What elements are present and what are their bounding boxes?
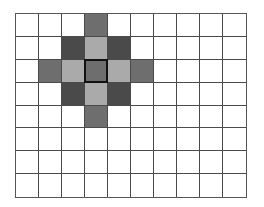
grid-cell [177, 174, 200, 197]
grid-cell [85, 174, 108, 197]
grid-cell [154, 14, 177, 37]
grid-cell [16, 83, 39, 106]
grid-cell [223, 128, 246, 151]
grid-cell [16, 174, 39, 197]
grid-cell [108, 174, 131, 197]
grid-cell [16, 37, 39, 60]
grid-cell [131, 106, 154, 129]
grid-cell-medium [39, 60, 62, 83]
grid-cell [223, 106, 246, 129]
grid-cell [131, 151, 154, 174]
grid-cell [177, 151, 200, 174]
grid-cell [154, 151, 177, 174]
grid-cell [200, 106, 223, 129]
grid-cell [16, 128, 39, 151]
grid-cell-medium [85, 106, 108, 129]
grid-cell [39, 14, 62, 37]
grid-cell [16, 14, 39, 37]
grid-cell-dark [108, 83, 131, 106]
grid-cell-medium [85, 14, 108, 37]
grid-cell [154, 37, 177, 60]
grid-cell [131, 128, 154, 151]
grid-cell [85, 151, 108, 174]
grid-cell [223, 14, 246, 37]
grid-cell [62, 151, 85, 174]
grid-cell [200, 60, 223, 83]
grid-cell [177, 60, 200, 83]
grid-cell [131, 14, 154, 37]
grid-cell [154, 128, 177, 151]
grid-cell [39, 106, 62, 129]
grid-cell [200, 151, 223, 174]
grid-cell [131, 174, 154, 197]
grid-cell [154, 83, 177, 106]
grid-cell [108, 14, 131, 37]
grid-cell-light [108, 60, 131, 83]
grid-cell [108, 151, 131, 174]
grid-cell [16, 151, 39, 174]
grid-cell [200, 174, 223, 197]
grid-cell [154, 60, 177, 83]
grid-cell [177, 37, 200, 60]
grid-cell [223, 37, 246, 60]
grid-cell [39, 151, 62, 174]
grid-cell [108, 106, 131, 129]
grid-cell [177, 128, 200, 151]
grid-cell [39, 37, 62, 60]
grid-cell-dark [62, 83, 85, 106]
grid-cell [177, 83, 200, 106]
grid-cell [200, 37, 223, 60]
grid-cell-light [85, 37, 108, 60]
grid-cell [39, 128, 62, 151]
grid-cell-light [85, 83, 108, 106]
grid-cell [200, 14, 223, 37]
grid-cell-light [62, 60, 85, 83]
grid-cell [154, 174, 177, 197]
grid-cell [223, 174, 246, 197]
grid-cell [131, 83, 154, 106]
grid-cell [16, 106, 39, 129]
grid-cell-medium [131, 60, 154, 83]
grid-cell [177, 106, 200, 129]
grid-cell [177, 14, 200, 37]
grid-cell [131, 37, 154, 60]
grid-cell [62, 128, 85, 151]
grid-cell [62, 14, 85, 37]
grid-cell [200, 83, 223, 106]
grid-cell-dark [62, 37, 85, 60]
grid-cell [154, 106, 177, 129]
grid-cell [108, 128, 131, 151]
grid-cell [39, 174, 62, 197]
grid-cell [200, 128, 223, 151]
grid-cell-medium [85, 60, 108, 83]
grid-cell [223, 83, 246, 106]
grid-cell [223, 60, 246, 83]
grid-cell [16, 60, 39, 83]
grid-cell [62, 174, 85, 197]
pixel-grid [15, 13, 247, 198]
grid-cell [39, 83, 62, 106]
grid-cell [85, 128, 108, 151]
grid-cell-dark [108, 37, 131, 60]
grid-cell [62, 106, 85, 129]
grid-cell [223, 151, 246, 174]
